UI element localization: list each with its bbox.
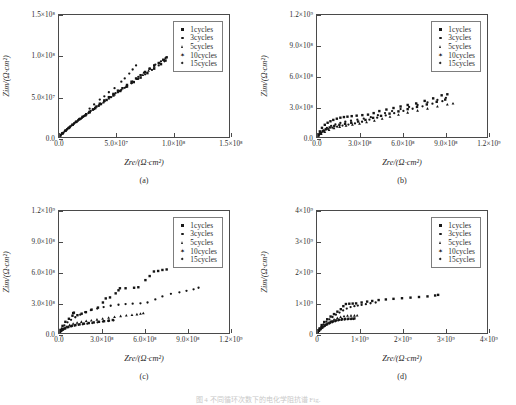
figure-bottom-caption: 图 4 不同循环次数下的电化学阻抗谱 Fig. [0,394,516,405]
plot-area-d: 01×10⁹2×10⁹3×10⁹4×10⁹01×10⁹2×10⁹3×10⁹4×1… [316,210,488,334]
panel-caption-d: (d) [316,372,488,381]
series-outliers [88,64,137,109]
y-tick-mark [317,139,321,140]
y-tick-label: 6.0×10⁸ [32,269,55,277]
y-tick-label: 5.0×10⁷ [32,94,55,102]
x-tick-label: 9.0×10⁸ [176,336,199,344]
legend-c: 1cycles3cycles5cycles✶10cycles15cycles [173,217,223,268]
series-1cycles [59,265,203,331]
x-tick-label: 1.0×10⁸ [162,140,185,148]
x-tick-mark [403,133,404,137]
x-tick-label: 4×10⁹ [480,336,498,344]
panel-caption-a: (a) [58,176,230,185]
x-tick-mark [317,329,318,333]
x-tick-mark [145,329,146,333]
plot-area-b: 0.03.0×10⁸6.0×10⁸9.0×10⁸1.2×10⁹0.03.0×10… [316,14,488,138]
y-tick-label: 1.2×10⁹ [32,207,55,215]
series-3cycles [317,301,377,332]
y-axis-title-b: Zim/(Ω·cm²) [260,55,269,96]
legend-item-10cycles[interactable]: ✶10cycles [177,247,217,256]
legend-item-3cycles[interactable]: 3cycles [177,34,217,43]
x-tick-label: 5.0×10⁷ [105,140,128,148]
legend-item-label: 15cycles [448,59,475,68]
panel-a: 0.05.0×10⁷1.0×10⁸1.5×10⁸0.05.0×10⁷1.0×10… [0,0,258,197]
y-axis-title-c: Zim/(Ω·cm²) [2,251,11,292]
legend-item-3cycles[interactable]: 3cycles [435,34,475,43]
y-tick-mark [317,335,321,336]
legend-item-15cycles[interactable]: 15cycles [435,59,475,68]
x-tick-mark [116,133,117,137]
legend-item-1cycles[interactable]: 1cycles [435,221,475,230]
square-marker [177,28,187,31]
y-tick-label: 1.5×10⁸ [32,11,55,19]
x-tick-mark [174,133,175,137]
triangle-marker [435,241,445,244]
y-tick-mark [59,15,63,16]
legend-item-15cycles[interactable]: 15cycles [435,255,475,264]
x-tick-mark [102,329,103,333]
y-tick-mark [317,273,321,274]
legend-item-10cycles[interactable]: ✶10cycles [177,51,217,60]
x-tick-mark [489,133,490,137]
legend-item-5cycles[interactable]: 5cycles [177,238,217,247]
x-tick-mark [360,133,361,137]
plot-area-c: 0.03.0×10⁸6.0×10⁸9.0×10⁸1.2×10⁹0.03.0×10… [58,210,230,334]
legend-item-1cycles[interactable]: 1cycles [435,25,475,34]
legend-item-5cycles[interactable]: 5cycles [435,238,475,247]
star-marker: ✶ [177,249,187,253]
x-tick-mark [489,329,490,333]
series-15cycles [59,59,167,136]
dot-marker [177,233,187,235]
panel-caption-c: (c) [58,372,230,381]
x-tick-mark [446,133,447,137]
series-15cycles [317,98,446,136]
x-tick-label: 1.2×10⁹ [477,140,500,148]
legend-item-10cycles[interactable]: ✶10cycles [435,51,475,60]
y-tick-mark [59,335,63,336]
y-tick-label: 1×10⁹ [295,300,313,308]
eis-figure-grid: 0.05.0×10⁷1.0×10⁸1.5×10⁸0.05.0×10⁷1.0×10… [0,0,516,405]
star-marker: ✶ [435,249,445,253]
panel-caption-b: (b) [316,176,488,185]
y-tick-mark [59,211,63,212]
square-marker [435,28,445,31]
legend-item-15cycles[interactable]: 15cycles [177,255,217,264]
x-tick-label: 9.0×10⁸ [434,140,457,148]
y-tick-mark [59,273,63,274]
series-5cycles [59,58,166,136]
x-tick-mark [231,133,232,137]
legend-item-3cycles[interactable]: 3cycles [435,230,475,239]
legend-item-3cycles[interactable]: 3cycles [177,230,217,239]
y-tick-label: 0.0 [304,135,313,143]
star-marker: ✶ [177,53,187,57]
legend-item-10cycles[interactable]: ✶10cycles [435,247,475,256]
legend-item-1cycles[interactable]: 1cycles [177,221,217,230]
panel-d: 01×10⁹2×10⁹3×10⁹4×10⁹01×10⁹2×10⁹3×10⁹4×1… [258,196,516,393]
triangle-marker [177,45,187,48]
diamond-marker [435,62,445,64]
y-tick-label: 4×10⁹ [295,207,313,215]
legend-item-label: 15cycles [190,255,217,264]
x-tick-label: 1×10⁹ [351,336,369,344]
x-tick-mark [360,329,361,333]
x-tick-mark [317,133,318,137]
legend-item-5cycles[interactable]: 5cycles [177,42,217,51]
x-tick-label: 6.0×10⁸ [391,140,414,148]
diamond-marker [177,62,187,64]
x-tick-label: 3×10⁹ [437,336,455,344]
y-tick-label: 0.0 [46,331,55,339]
y-tick-mark [317,46,321,47]
x-tick-label: 0.0 [312,140,321,148]
series-1cycles [317,294,439,333]
legend-item-1cycles[interactable]: 1cycles [177,25,217,34]
x-tick-mark [231,329,232,333]
legend-a: 1cycles3cycles5cycles✶10cycles15cycles [173,21,223,72]
y-tick-mark [59,139,63,140]
legend-item-15cycles[interactable]: 15cycles [177,59,217,68]
y-tick-mark [317,242,321,243]
triangle-marker [435,45,445,48]
y-tick-label: 3.0×10⁸ [32,300,55,308]
legend-item-5cycles[interactable]: 5cycles [435,42,475,51]
y-tick-mark [317,77,321,78]
y-tick-label: 1.0×10⁸ [32,52,55,60]
